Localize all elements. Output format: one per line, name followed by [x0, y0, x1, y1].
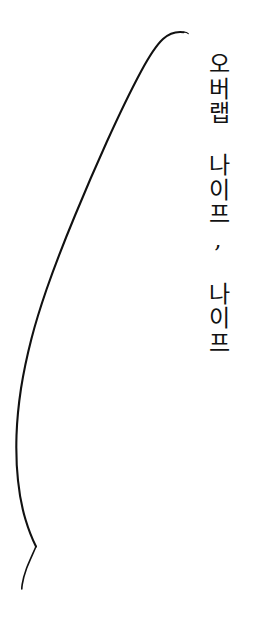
vertical-caption-text: 오버랩 나이프, 나이프	[196, 52, 230, 302]
illustration-page: 오버랩 나이프, 나이프	[0, 0, 253, 633]
